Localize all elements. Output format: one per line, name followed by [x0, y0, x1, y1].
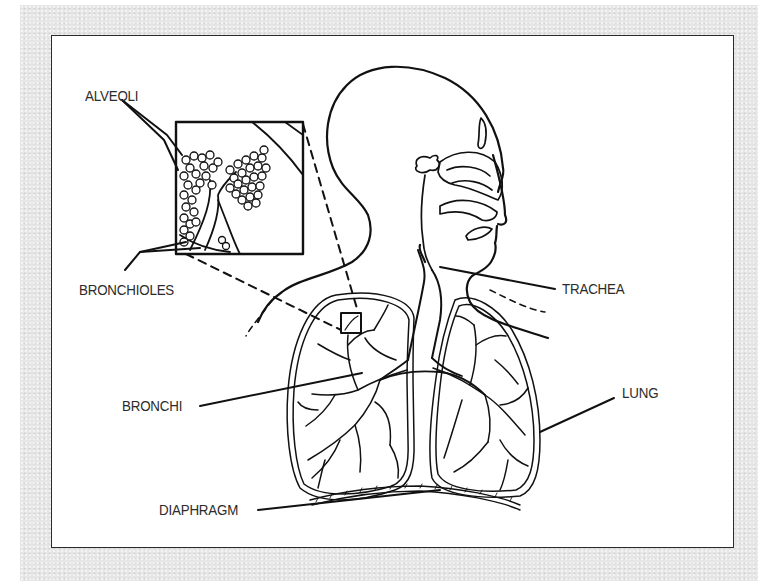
label-bronchioles: BRONCHIOLES — [79, 283, 174, 298]
alveoli-inset — [176, 122, 303, 254]
right-lung — [430, 298, 540, 497]
diagram-stage: ALVEOLI BRONCHIOLES BRONCHI DIAPHRAGM TR… — [0, 0, 765, 587]
label-bronchi: BRONCHI — [122, 399, 182, 414]
label-trachea: TRACHEA — [562, 282, 624, 297]
label-alveoli: ALVEOLI — [85, 89, 138, 104]
left-lung — [287, 293, 414, 500]
label-lung: LUNG — [622, 386, 658, 401]
label-diaphragm: DIAPHRAGM — [159, 503, 238, 518]
bronchi — [380, 358, 485, 395]
shoulder-dashed-curves — [246, 290, 545, 336]
nasal-cavity — [416, 118, 503, 270]
